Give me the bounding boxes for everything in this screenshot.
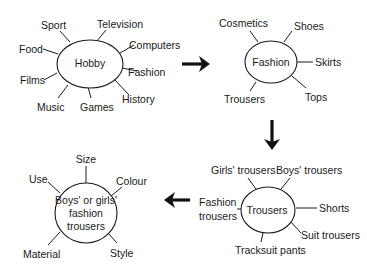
spoke-tops	[292, 76, 306, 88]
branch-shorts: Shorts	[319, 202, 349, 214]
arrow-right-icon	[182, 56, 210, 72]
boys-girls-map: Boys' or girls' fashion trousers Size Us…	[23, 153, 147, 260]
spoke-food	[43, 49, 58, 54]
arrow-down-icon	[264, 120, 280, 150]
hobby-map: Hobby Sport Television Food Computers Fa…	[19, 18, 180, 113]
branch-films: Films	[20, 74, 45, 86]
trousers-map: Trousers Girls' trousers Boys' trousers …	[199, 164, 360, 256]
hobby-center-label: Hobby	[75, 57, 106, 69]
spoke-cosmetics	[250, 31, 258, 42]
branch-skirts: Skirts	[315, 56, 341, 68]
boys-girls-center-line3: trousers	[67, 220, 105, 232]
spoke-suit-trousers	[291, 222, 301, 233]
boys-girls-center-line2: fashion	[69, 207, 103, 219]
branch-shoes: Shoes	[294, 20, 324, 32]
branch-boys-trousers: Boys' trousers	[276, 164, 342, 176]
spoke-girls-trousers	[248, 178, 256, 189]
branch-food: Food	[19, 43, 43, 55]
branch-television: Television	[97, 18, 143, 30]
branch-cosmetics: Cosmetics	[219, 17, 268, 29]
trousers-center-label: Trousers	[246, 204, 287, 216]
branch-style: Style	[110, 247, 134, 259]
spoke-style	[108, 233, 117, 243]
spoke-shoes	[284, 31, 292, 42]
branch-music: Music	[37, 101, 64, 113]
branch-history: History	[122, 93, 155, 105]
fashion-center-label: Fashion	[252, 56, 290, 68]
branch-suit-trousers: Suit trousers	[301, 229, 360, 241]
spoke-films	[44, 73, 57, 80]
branch-computers: Computers	[129, 39, 180, 51]
branch-size: Size	[76, 153, 97, 165]
spoke-boys-trousers	[281, 178, 290, 189]
branch-fashion: Fashion	[128, 66, 166, 78]
spoke-material	[48, 232, 60, 245]
fashion-map: Fashion Cosmetics Shoes Skirts Trousers …	[219, 17, 341, 105]
branch-tops: Tops	[305, 91, 327, 103]
branch-use: Use	[29, 173, 48, 185]
boys-girls-center-line1: Boys' or girls'	[55, 194, 117, 206]
branch-girls-trousers: Girls' trousers	[211, 164, 275, 176]
branch-fashion-trousers-1: Fashion	[199, 196, 237, 208]
spoke-tracksuit-pants	[261, 233, 263, 242]
branch-sport: Sport	[41, 19, 66, 31]
arrow-left-icon	[164, 192, 190, 208]
branch-colour: Colour	[116, 175, 147, 187]
branch-games: Games	[80, 101, 114, 113]
spoke-music	[58, 85, 68, 98]
mind-map-diagram: Hobby Sport Television Food Computers Fa…	[0, 0, 367, 273]
branch-tracksuit-pants: Tracksuit pants	[235, 244, 306, 256]
spoke-games	[88, 87, 91, 98]
branch-trousers: Trousers	[224, 93, 265, 105]
branch-material: Material	[23, 248, 60, 260]
spoke-trousers	[250, 82, 256, 91]
spoke-sport	[60, 31, 70, 42]
spoke-use	[48, 182, 60, 193]
branch-fashion-trousers-2: trousers	[199, 210, 237, 222]
